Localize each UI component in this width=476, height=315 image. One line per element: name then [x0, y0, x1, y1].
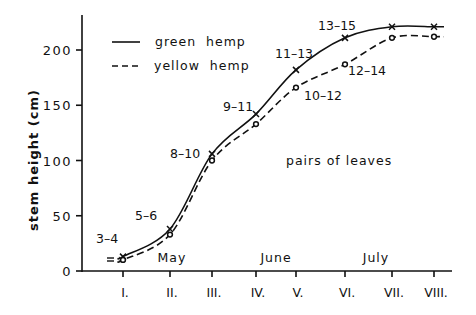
legend-yellow-hemp: yellow hemp: [154, 58, 250, 73]
y-axis-label: stem height (cm): [26, 89, 41, 231]
x-marker: [209, 151, 215, 157]
y-ticks: 050100150200: [43, 43, 82, 279]
x-marker: [253, 111, 259, 117]
month-label: June: [259, 250, 291, 265]
leaf-pair-label: 9–11: [223, 99, 253, 114]
axes: [82, 15, 452, 272]
circle-marker: [254, 122, 259, 127]
y-tick-label: 200: [43, 43, 72, 58]
x-tick-label: III.: [206, 285, 221, 300]
circle-marker: [294, 85, 299, 90]
x-tick-label: VI.: [339, 285, 355, 300]
y-tick-label: 50: [52, 209, 72, 224]
x-tick-label: IV.: [251, 285, 266, 300]
leaf-pair-label: 11–13: [275, 46, 313, 61]
leaf-pair-label: 13–15: [318, 18, 356, 33]
y-tick-label: 150: [43, 98, 72, 113]
leaf-pair-label: 3–4: [96, 231, 118, 246]
x-tick-label: V.: [293, 285, 304, 300]
leaf-pair-label: 8–10: [170, 146, 200, 161]
circle-marker: [343, 62, 348, 67]
circle-marker: [210, 158, 215, 163]
legend: green hemp yellow hemp: [112, 34, 250, 73]
leaf-pair-label: 12–14: [348, 63, 386, 78]
x-tick-label: VIII.: [424, 285, 448, 300]
circle-marker: [432, 34, 437, 39]
circle-marker: [121, 258, 126, 263]
month-label: July: [362, 250, 389, 265]
pairs-of-leaves-label: pairs of leaves: [286, 153, 392, 168]
leaf-pair-label: 10–12: [304, 88, 342, 103]
circle-marker: [390, 35, 395, 40]
x-tick-label: II.: [166, 285, 177, 300]
month-labels: MayJuneJuly: [158, 250, 390, 265]
x-marker: [293, 67, 299, 73]
stem-height-chart: 050100150200 I.II.III.IV.V.VI.VII.VIII. …: [0, 0, 476, 315]
y-tick-label: 100: [43, 154, 72, 169]
x-tick-label: I.: [121, 285, 129, 300]
x-marker: [167, 226, 173, 232]
leaf-pair-label: 5–6: [135, 208, 157, 223]
circle-marker: [168, 232, 173, 237]
x-marker: [342, 35, 348, 41]
x-ticks: I.II.III.IV.V.VI.VII.VIII.: [121, 271, 448, 300]
y-tick-label: 0: [62, 264, 72, 279]
month-label: May: [158, 250, 187, 265]
x-tick-label: VII.: [384, 285, 404, 300]
leaf-pair-annotations: 3–45–68–109–1111–1310–1213–1512–14: [96, 18, 386, 246]
legend-green-hemp: green hemp: [155, 34, 246, 49]
